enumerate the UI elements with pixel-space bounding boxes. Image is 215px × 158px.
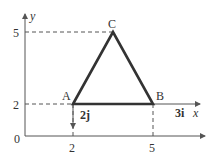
diagram: y x 0 5 2 2 5 A B C 2j 3i xyxy=(0,0,215,158)
triangle-abc xyxy=(73,32,153,104)
x-axis-label: x xyxy=(192,106,199,120)
vector-2j-label: 2j xyxy=(80,108,90,122)
vector-3i-label: 3i xyxy=(175,106,185,120)
point-a-label: A xyxy=(62,89,71,103)
y-tick-2: 2 xyxy=(13,98,19,112)
point-b-label: B xyxy=(156,89,164,103)
origin-label: 0 xyxy=(14,132,20,146)
x-tick-2: 2 xyxy=(69,141,75,155)
y-tick-5: 5 xyxy=(13,26,19,40)
point-c-label: C xyxy=(108,17,116,31)
x-tick-5: 5 xyxy=(149,141,155,155)
y-axis-label: y xyxy=(29,9,36,23)
